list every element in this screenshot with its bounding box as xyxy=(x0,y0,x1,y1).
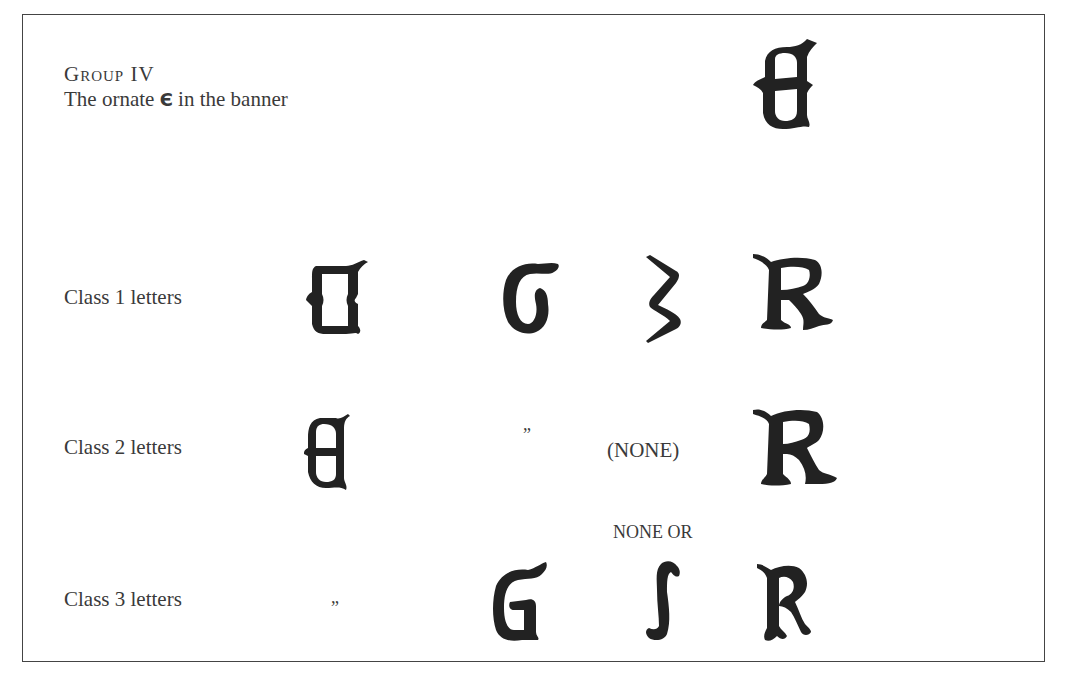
class-1-ornate-e-glyph xyxy=(302,258,370,338)
class-1-ornate-s-glyph xyxy=(642,255,692,345)
row-label-class-3: Class 3 letters xyxy=(64,587,182,612)
class-3-ornate-s-glyph xyxy=(643,560,683,642)
row-label-class-2: Class 2 letters xyxy=(64,435,182,460)
class-2-ornate-e-glyph xyxy=(302,410,352,492)
subtitle-after: in the banner xyxy=(173,87,288,111)
class-2-ornate-r-glyph xyxy=(753,404,839,488)
class-3-ornate-r-glyph xyxy=(757,562,823,646)
class-3-none-or-note: NONE OR xyxy=(613,522,693,543)
class-2-ditto-mark: ” xyxy=(523,425,531,446)
class-3-ditto-mark: ” xyxy=(331,598,339,619)
subtitle-before: The ornate xyxy=(64,87,160,111)
subtitle: The ornate Є in the banner xyxy=(64,87,288,112)
row-label-class-1: Class 1 letters xyxy=(64,285,182,310)
class-2-none-label: (NONE) xyxy=(607,438,679,463)
class-1-ornate-r-glyph xyxy=(753,250,837,334)
class-1-ornate-g-glyph xyxy=(500,258,562,338)
banner-ornate-e-glyph xyxy=(747,37,819,131)
inline-ornate-e-glyph: Є xyxy=(160,89,173,110)
group-title: Group IV xyxy=(64,62,155,87)
class-3-ornate-g-glyph xyxy=(490,560,550,644)
